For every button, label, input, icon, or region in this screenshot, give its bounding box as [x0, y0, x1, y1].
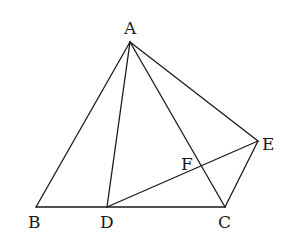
- point-label-f: F: [181, 154, 193, 174]
- point-label-b: B: [28, 212, 41, 232]
- segment-ce: [225, 141, 258, 207]
- geometry-diagram: ABDCEF: [0, 0, 296, 244]
- point-label-a: A: [123, 18, 137, 38]
- point-label-d: D: [100, 212, 114, 232]
- segments-group: [36, 42, 258, 207]
- segment-ae: [130, 42, 258, 141]
- segment-ad: [107, 42, 130, 207]
- point-label-c: C: [218, 212, 231, 232]
- segment-de: [107, 141, 258, 207]
- point-label-e: E: [262, 134, 274, 154]
- segment-ab: [36, 42, 130, 207]
- segment-ac: [130, 42, 225, 207]
